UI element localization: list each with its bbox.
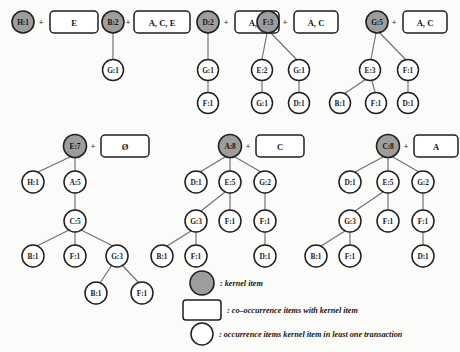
tree-node-label: F:1 [345,252,356,261]
kernel-node-label: F:3 [263,18,274,27]
tree-edge [200,157,225,172]
tree-edge [371,33,376,59]
legend-kernel-swatch [190,271,214,295]
kernel-node-label: D:2 [202,18,214,27]
tree-edge [393,157,419,172]
kernel-node-label: G:5 [371,18,383,27]
tree-edge [122,265,139,283]
tree-node-label: F:1 [70,252,81,261]
tree-edge [38,157,70,172]
tree-node-label: F:1 [260,217,271,226]
cooccurrence-box-label: A, C [308,18,325,28]
tree-node-label: B:1 [157,252,168,261]
tree-node-label: D:1 [402,99,414,108]
tree-edge [321,231,345,246]
kernel-node-label: A:8 [224,142,236,151]
legend-label-2: : occurrence items kernel item in least … [219,330,403,339]
tree-node-label: F:1 [418,217,429,226]
tree-node-label: H:1 [27,178,39,187]
kernel-node-label: C:8 [382,142,394,151]
plus-operator: + [246,142,251,151]
tree-node-label: C:5 [69,217,81,226]
tree-node-label: B:1 [335,99,346,108]
tree-diagram: H:1+EG:1B:2+A, C, EG:1F:1D:2+A, CE:2G:1G… [0,0,460,352]
tree-node-label: G:1 [293,66,305,75]
tree-node-label: G:3 [111,252,123,261]
tree-edge [37,230,69,246]
tree-edge [270,32,297,60]
plus-operator: + [39,18,44,27]
tree-node-label: E:5 [383,178,394,187]
tree-edge [379,32,406,60]
tree-node-label: B:1 [91,289,102,298]
cooccurrence-box-label: A, C, E [149,18,176,28]
plus-operator: + [404,142,409,151]
tree-edge [100,265,112,283]
tree-node-label: G:3 [190,217,202,226]
tree-node-label: D:1 [417,252,429,261]
kernel-node-label: E:7 [70,142,81,151]
tree-node-label: F:1 [137,289,148,298]
tree-edge [235,157,261,172]
tree-node-label: F:1 [383,217,394,226]
legend-label-1: : co–occurrence items with kernel item [227,306,358,315]
cooccurrence-box-label: C [277,142,283,152]
plus-operator: + [224,18,229,27]
tree-node-label: F:1 [225,217,236,226]
tree-node-label: E:3 [365,66,376,75]
tree-node-label: B:1 [311,252,322,261]
tree-node-label: F:1 [371,99,382,108]
tree-node-label: F:1 [191,252,202,261]
tree-node-label: E:2 [257,66,268,75]
tree-edge [355,192,383,211]
tree-edge [355,157,383,172]
tree-node-label: G:1 [107,66,119,75]
kernel-node-label: H:1 [17,18,29,27]
tree-node-label: B:1 [28,252,39,261]
tree-node-label: G:1 [256,99,268,108]
tree-node-label: G:2 [259,178,271,187]
tree-node-label: D:1 [190,178,202,187]
tree-node-label: D:1 [293,99,305,108]
plus-operator: + [283,18,288,27]
tree-node-label: G:2 [417,178,429,187]
cooccurrence-box-label: A, C [417,18,434,28]
tree-edge [167,231,191,246]
tree-node-label: D:1 [259,252,271,261]
figure-canvas: H:1+EG:1B:2+A, C, EG:1F:1D:2+A, CE:2G:1G… [0,0,460,352]
tree-node-label: G:1 [202,66,214,75]
cooccurrence-box-label: Ø [122,142,129,152]
tree-edge [201,192,225,211]
legend-label-0: : kernel item [220,279,263,288]
legend-occurrence-swatch [191,323,213,345]
tree-edge [81,230,113,246]
plus-operator: + [126,18,131,27]
legend-cooccurrence-swatch [183,300,221,320]
plus-operator: + [392,18,397,27]
tree-edge [344,79,366,94]
kernel-node-label: B:2 [108,18,119,27]
tree-node-label: F:1 [403,66,414,75]
plus-operator: + [91,142,96,151]
tree-edge [262,33,267,59]
cooccurrence-box-label: A [433,142,440,152]
tree-node-label: E:5 [225,178,236,187]
tree-node-label: A:5 [69,178,81,187]
tree-node-label: G:3 [344,217,356,226]
cooccurrence-box-label: E [71,18,77,28]
tree-edge [372,81,375,92]
tree-node-label: F:1 [203,99,214,108]
tree-node-label: D:1 [344,178,356,187]
